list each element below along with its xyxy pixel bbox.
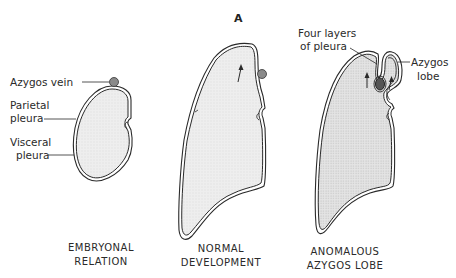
azygos-vein-embryonal	[110, 78, 119, 87]
caption-normal-1: NORMAL	[176, 242, 266, 255]
label-parietal-pleura-2: pleura	[10, 112, 43, 124]
label-parietal-pleura-1: Parietal	[10, 99, 49, 111]
label-four-layers-1: Four layers	[298, 27, 356, 39]
label-visceral-pleura-1: Visceral	[10, 136, 51, 148]
caption-embryonal-1: EMBRYONAL	[66, 241, 136, 254]
pleura-diagram	[0, 0, 456, 278]
azygos-vein-anomalous	[376, 78, 385, 90]
label-four-layers-2: of pleura	[300, 40, 347, 52]
caption-normal-2: DEVELOPMENT	[176, 256, 266, 269]
azygos-vein-normal	[258, 70, 267, 79]
anomalous-lung	[315, 51, 402, 233]
label-azygos-lobe-2: lobe	[417, 70, 439, 82]
caption-anomalous-2: AZYGOS LOBE	[300, 259, 390, 272]
panel-letter: A	[234, 12, 243, 25]
caption-embryonal-2: RELATION	[66, 255, 136, 268]
label-azygos-vein: Azygos vein	[10, 76, 73, 88]
label-azygos-lobe-1: Azygos	[411, 56, 448, 68]
embryonal-lung	[73, 86, 132, 181]
label-visceral-pleura-2: pleura	[16, 149, 49, 161]
normal-lung	[179, 43, 266, 239]
caption-anomalous-1: ANOMALOUS	[300, 245, 390, 258]
